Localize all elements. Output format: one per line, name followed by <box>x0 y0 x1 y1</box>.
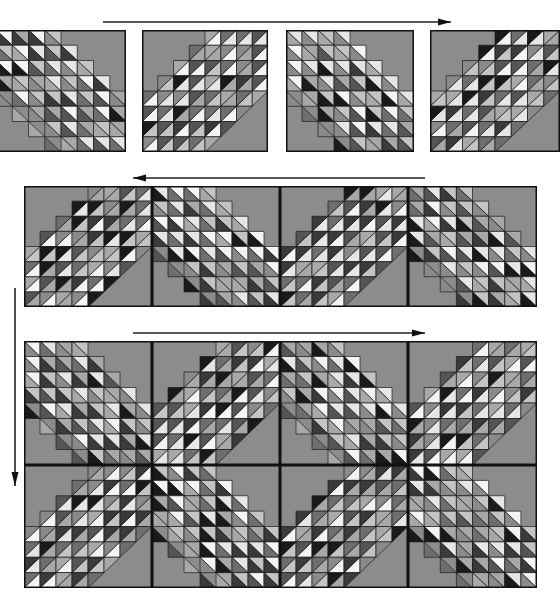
down-arrow-icon <box>0 0 554 605</box>
quilt-assembly-diagram <box>0 0 554 605</box>
